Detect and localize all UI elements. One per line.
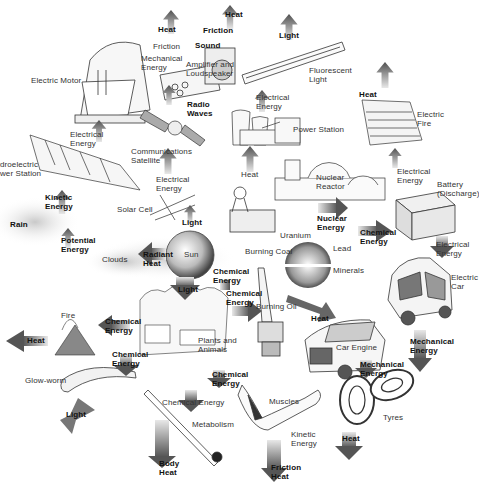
arrow-label-chemical-energy: Chemical Energy <box>226 289 262 307</box>
arrow-label-friction-heat: Friction Heat <box>271 463 301 481</box>
label-clouds: Clouds <box>102 255 128 264</box>
arrow-label-mechanical-energy: Mechanical Energy <box>141 54 182 72</box>
arrow-label-light: Light <box>182 218 202 227</box>
arrow-label-electrical-energy: Electrical Energy <box>436 240 469 258</box>
arrow-label-mechanical-energy: Mechanical Energy <box>360 360 404 378</box>
label-uranium: Uranium <box>280 231 311 240</box>
arrow-label-light: Light <box>66 410 86 419</box>
arrow-label-chemical-energy: Chemical Energy <box>213 267 249 285</box>
label-battery: Battery (Discharge) <box>437 180 479 198</box>
electric-motor-illustration <box>75 42 150 123</box>
arrow-label-potential-energy: Potential Energy <box>61 236 96 254</box>
burning-oil-illustration <box>258 268 283 356</box>
arrow-label-chemical-energy: Chemical Energy <box>360 228 396 246</box>
arrow-label-chemical-energy: Chemical Energy <box>105 317 141 335</box>
label-car-engine: Car Engine <box>336 343 377 352</box>
label-fluorescent-light: Fluorescent Light <box>309 66 352 84</box>
arrow-label-mechanical-energy: Mechanical Energy <box>410 337 454 355</box>
arrow-label-friction: Friction <box>153 42 180 51</box>
arrow-label-chemical-energy: Chemical Energy <box>212 370 248 388</box>
arrow-label-electrical-energy: Electrical Energy <box>397 167 430 185</box>
label-rain: Rain <box>10 220 28 229</box>
label-electric-car: Electric Car <box>451 273 478 291</box>
arrow-label-chemical-energy: Chemical Energy <box>162 398 224 407</box>
arrow-label-friction: Friction <box>203 26 233 35</box>
label-muscles: Muscles <box>269 397 299 406</box>
arrow-label-chemical-energy: Chemical Energy <box>112 350 148 368</box>
arrow-label-radio-waves: Radio Waves <box>187 100 213 118</box>
arrow-label-nuclear-energy: Nuclear Energy <box>317 214 347 232</box>
arrow-label-electrical-energy: Electrical Energy <box>70 130 103 148</box>
fire-illustration <box>55 319 95 355</box>
arrow-label-kinetic-energy: Kinetic Energy <box>45 193 73 211</box>
arrow-label-electrical-energy: Electrical Energy <box>256 93 289 111</box>
arrow-label-heat: Heat <box>27 336 45 345</box>
label-hydro-station: Hydroelectric Power Station <box>0 160 41 178</box>
arm-muscles-illustration <box>238 385 321 430</box>
arrow-label-heat: Heat <box>342 434 360 443</box>
label-nuclear-reactor: Nuclear Reactor <box>316 173 345 191</box>
electric-car-illustration <box>388 258 452 325</box>
label-glow-worm: Glow-worm <box>25 376 66 385</box>
arrow-label-sound: Sound <box>195 41 220 50</box>
arrow-label-kinetic-energy: Kinetic Energy <box>291 430 317 448</box>
arrow-label-electrical-energy: Electrical Energy <box>156 175 189 193</box>
label-power-station: Power Station <box>293 125 344 134</box>
arrow-label-heat: Heat <box>311 314 329 323</box>
label-satellite: Communications Satellite <box>131 147 192 165</box>
label-lead: Lead <box>333 244 351 253</box>
label-electric-fire: Electric Fire <box>417 110 444 128</box>
arrow-label-radiant-heat: Radiant Heat <box>143 250 173 268</box>
label-tyres: Tyres <box>383 413 403 422</box>
label-fire: Fire <box>61 311 75 320</box>
arrow-label-heat: Heat <box>158 25 176 34</box>
label-sun: Sun <box>184 250 199 259</box>
arrow-label-light: Light <box>178 285 198 294</box>
label-minerals: Minerals <box>333 266 364 275</box>
label-plants-animals: Plants and Animals <box>198 336 237 354</box>
label-electric-motor: Electric Motor <box>31 76 81 85</box>
battery-illustration <box>396 192 455 240</box>
label-burning-coal: Burning Coal <box>245 247 292 256</box>
arrow-label-light: Light <box>279 31 299 40</box>
label-amplifier: Amplifier and Loudspeaker <box>186 60 234 78</box>
arrow-label-heat: Heat <box>225 10 243 19</box>
arrow-label-heat: Heat <box>359 90 377 99</box>
label-solar-cell: Solar Cell <box>117 205 153 214</box>
arrow-label-heat: Heat <box>241 170 258 179</box>
label-metabolism: Metabolism <box>192 420 234 429</box>
arrow-label-body-heat: Body Heat <box>159 459 179 477</box>
coal-mine-illustration <box>230 187 275 232</box>
power-station-illustration <box>232 110 300 145</box>
electric-fire-illustration <box>362 100 422 145</box>
